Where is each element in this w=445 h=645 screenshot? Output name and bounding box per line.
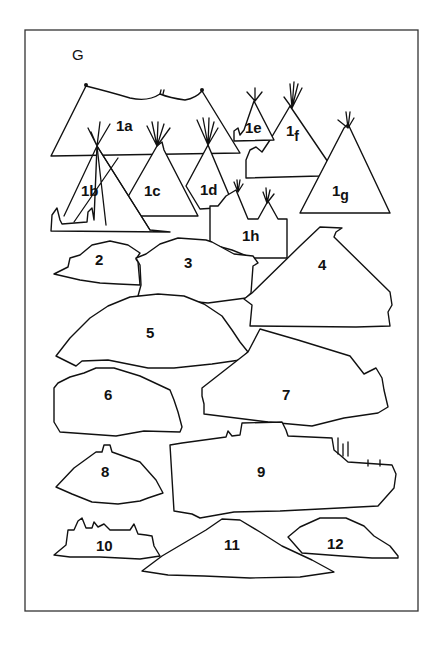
shape-10: 10 — [54, 518, 160, 559]
label-1b-suffix: b — [89, 182, 98, 199]
shape-5: 5 — [56, 294, 248, 368]
label-1g-suffix: g — [340, 187, 349, 203]
panel-label: G — [72, 46, 84, 63]
label-10: 10 — [96, 537, 113, 554]
label-1h-suffix: h — [250, 227, 259, 244]
label-1a-suffix: a — [124, 117, 133, 134]
label-7: 7 — [282, 386, 290, 403]
label-1d-num: 1 — [200, 181, 208, 198]
label-8: 8 — [101, 463, 109, 480]
shape-2: 2 — [54, 241, 140, 285]
shape-1e: 1e — [234, 88, 274, 141]
shapes-diagram: G 1a 1f 1e 1g 1d 1c 1b — [0, 0, 445, 645]
label-1e-num: 1 — [245, 119, 253, 136]
label-1a-num: 1 — [116, 117, 124, 134]
label-3: 3 — [184, 254, 192, 271]
svg-text:1b: 1b — [81, 182, 99, 199]
label-12: 12 — [327, 535, 344, 552]
shape-9: 9 — [170, 422, 396, 518]
label-9: 9 — [257, 463, 265, 480]
label-1d-suffix: d — [208, 181, 217, 198]
label-1c-num: 1 — [144, 182, 152, 199]
label-1h-num: 1 — [242, 227, 250, 244]
label-1f-num: 1 — [286, 122, 294, 139]
shape-6: 6 — [54, 368, 182, 436]
svg-text:1h: 1h — [242, 227, 260, 244]
svg-text:1e: 1e — [245, 119, 262, 136]
svg-text:1c: 1c — [144, 182, 161, 199]
label-1e-suffix: e — [253, 119, 261, 136]
shape-1a: 1a — [51, 83, 240, 156]
label-5: 5 — [146, 324, 154, 341]
label-11: 11 — [224, 536, 240, 553]
label-4: 4 — [318, 256, 327, 273]
shape-12: 12 — [288, 518, 398, 558]
label-1g-num: 1 — [332, 182, 340, 199]
label-2: 2 — [95, 251, 103, 268]
label-1b-num: 1 — [81, 182, 89, 199]
svg-text:1a: 1a — [116, 117, 133, 134]
svg-text:1d: 1d — [200, 181, 218, 198]
label-1c-suffix: c — [152, 182, 160, 199]
label-6: 6 — [104, 386, 112, 403]
label-1f-suffix: f — [294, 128, 299, 144]
shape-8: 8 — [56, 445, 163, 504]
